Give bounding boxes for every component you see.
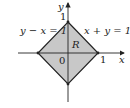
x-axis-label: x: [119, 54, 125, 65]
region-label: R: [71, 39, 80, 50]
x-tick-label: 1: [100, 54, 106, 65]
line-label-left: y − x = 1: [19, 25, 67, 36]
origin-label: 0: [59, 55, 65, 66]
left-vertex-dot: [37, 52, 40, 55]
bottom-vertex-dot: [67, 83, 70, 86]
top-vertex-dot: [67, 21, 70, 24]
right-vertex-dot: [97, 52, 100, 55]
y-tick-label: 1: [60, 11, 66, 22]
diagram-canvas: y x 1 1 0 R y − x = 1 x + y = 1: [0, 0, 130, 108]
line-label-right: x + y = 1: [84, 25, 130, 36]
